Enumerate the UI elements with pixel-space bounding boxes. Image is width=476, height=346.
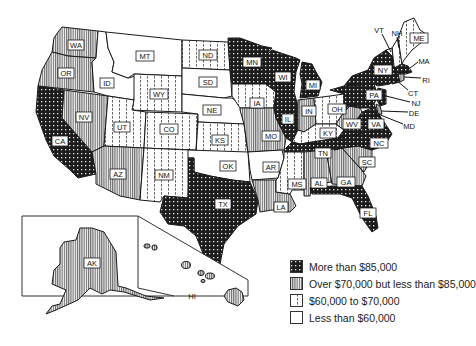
svg-text:MT: MT — [140, 52, 151, 61]
legend-label: More than $85,000 — [309, 261, 397, 273]
svg-text:PA: PA — [369, 91, 378, 100]
svg-text:AK: AK — [87, 259, 97, 268]
legend-item-under-60k: Less than $60,000 — [290, 309, 476, 326]
hi-island-2[interactable] — [152, 245, 157, 250]
label-MT: MT — [136, 51, 154, 61]
legend-item-over-85k: More than $85,000 — [290, 258, 476, 275]
label-NV: NV — [76, 112, 92, 122]
label-NY: NY — [374, 65, 392, 75]
label-OK: OK — [220, 161, 236, 171]
label-OR: OR — [58, 68, 74, 78]
swatch-dark-grid-icon — [290, 260, 303, 273]
hi-island-4[interactable] — [198, 271, 204, 276]
svg-text:GA: GA — [341, 178, 352, 187]
label-MD: MD — [403, 122, 415, 131]
label-HI: HI — [188, 292, 196, 301]
legend-label: Over $70,000 but less than $85,000 — [309, 278, 476, 290]
swatch-sparse-vertical-icon — [290, 294, 303, 307]
label-SC: SC — [359, 157, 375, 167]
svg-text:OK: OK — [223, 162, 234, 171]
svg-text:WA: WA — [70, 41, 82, 50]
label-CA: CA — [52, 136, 68, 146]
svg-text:NE: NE — [207, 106, 217, 115]
svg-text:ID: ID — [103, 79, 111, 88]
label-AZ: AZ — [110, 169, 126, 179]
label-ME: ME — [410, 33, 428, 43]
label-KS: KS — [212, 135, 228, 145]
label-DE: DE — [409, 109, 419, 118]
svg-text:WY: WY — [153, 90, 165, 99]
svg-text:SC: SC — [362, 158, 373, 167]
label-NC: NC — [370, 138, 388, 148]
svg-text:IL: IL — [285, 115, 291, 124]
swatch-dense-vertical-icon — [290, 277, 303, 290]
label-PA: PA — [366, 90, 382, 100]
label-MI: MI — [306, 80, 320, 90]
label-WA: WA — [68, 40, 84, 50]
svg-text:MS: MS — [291, 180, 302, 189]
label-VA: VA — [368, 119, 384, 129]
label-IL: IL — [282, 114, 294, 124]
svg-text:OH: OH — [331, 105, 342, 114]
label-WI: WI — [275, 72, 291, 82]
label-AL: AL — [311, 178, 327, 188]
svg-text:SD: SD — [203, 78, 214, 87]
hi-island-3[interactable] — [182, 262, 191, 269]
svg-text:VA: VA — [371, 120, 380, 129]
label-KY: KY — [320, 128, 336, 138]
label-ND: ND — [199, 50, 217, 60]
label-CT: CT — [408, 89, 418, 98]
legend-label: Less than $60,000 — [309, 312, 395, 324]
hi-island-5[interactable] — [206, 273, 215, 279]
label-NH: NH — [392, 29, 403, 38]
label-CO: CO — [160, 124, 178, 134]
label-FL: FL — [360, 208, 376, 218]
label-NM: NM — [155, 170, 173, 180]
legend: More than $85,000 Over $70,000 but less … — [290, 258, 476, 326]
svg-text:CA: CA — [55, 137, 65, 146]
svg-text:UT: UT — [117, 123, 127, 132]
svg-text:OR: OR — [60, 69, 72, 78]
hi-island-1[interactable] — [144, 244, 150, 248]
label-MN: MN — [243, 57, 261, 67]
svg-text:AZ: AZ — [113, 170, 123, 179]
svg-text:CO: CO — [163, 125, 174, 134]
svg-text:LA: LA — [276, 203, 285, 212]
svg-text:MO: MO — [265, 132, 277, 141]
svg-text:FL: FL — [364, 209, 373, 218]
svg-text:NC: NC — [374, 139, 385, 148]
label-WV: WV — [343, 119, 361, 129]
label-OH: OH — [328, 104, 346, 114]
svg-text:AR: AR — [266, 163, 277, 172]
label-TX: TX — [215, 199, 231, 209]
label-IN: IN — [302, 106, 316, 116]
label-RI: RI — [422, 76, 430, 85]
label-SD: SD — [199, 77, 217, 87]
svg-text:NM: NM — [158, 171, 170, 180]
svg-text:NY: NY — [378, 66, 388, 75]
label-NJ: NJ — [411, 99, 420, 108]
svg-text:WV: WV — [346, 120, 358, 129]
svg-text:ND: ND — [203, 51, 214, 60]
hi-island-6[interactable] — [201, 279, 205, 282]
label-MO: MO — [262, 131, 280, 141]
label-MS: MS — [288, 179, 306, 189]
svg-text:TX: TX — [218, 200, 228, 209]
svg-text:MN: MN — [246, 58, 258, 67]
label-NE: NE — [203, 105, 221, 115]
svg-text:IN: IN — [305, 107, 313, 116]
svg-text:TN: TN — [318, 149, 328, 158]
svg-text:MI: MI — [309, 81, 317, 90]
legend-label: $60,000 to $70,000 — [309, 295, 400, 307]
svg-text:NV: NV — [79, 113, 89, 122]
label-TN: TN — [315, 148, 331, 158]
label-GA: GA — [337, 177, 355, 187]
legend-item-60k-70k: $60,000 to $70,000 — [290, 292, 476, 309]
svg-text:WI: WI — [278, 73, 287, 82]
legend-item-70k-85k: Over $70,000 but less than $85,000 — [290, 275, 476, 292]
label-WY: WY — [150, 89, 168, 99]
label-AR: AR — [263, 162, 279, 172]
svg-text:IA: IA — [253, 99, 260, 108]
label-VT: VT — [374, 26, 384, 35]
svg-text:KS: KS — [215, 136, 225, 145]
